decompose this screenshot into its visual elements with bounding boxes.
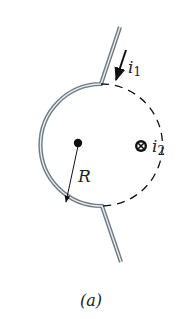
current-2-label: i2 xyxy=(152,136,165,158)
current-2-into-page-icon xyxy=(135,140,147,152)
circuit-diagram: R i1 i2 (a) xyxy=(0,0,186,319)
center-dot xyxy=(74,139,82,147)
figure-caption: (a) xyxy=(80,291,102,310)
radius-label: R xyxy=(77,166,91,186)
current-1-label: i1 xyxy=(128,57,141,79)
radius-arrow xyxy=(66,146,78,202)
current-1-arrow xyxy=(116,50,126,80)
